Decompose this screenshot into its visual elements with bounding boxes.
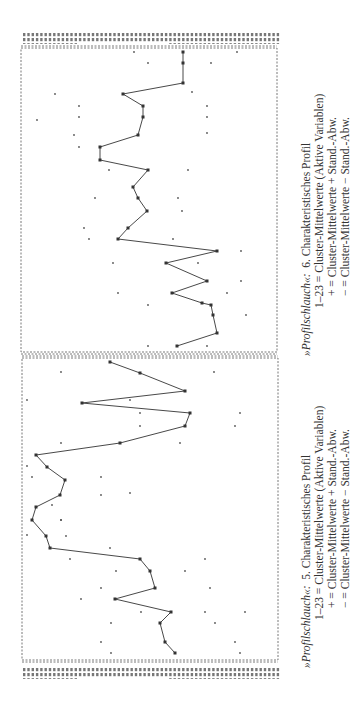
mean-point-marker [147, 169, 150, 172]
tick-label [139, 33, 141, 36]
tick-label [165, 38, 167, 41]
tick-label [45, 668, 47, 671]
minus-sd-marker [204, 611, 206, 613]
tick-label [199, 668, 201, 671]
tick-label [36, 673, 38, 676]
tick-label [208, 673, 210, 676]
tick-label [277, 668, 279, 671]
tick-label [53, 668, 55, 671]
mean-profile-line [32, 362, 190, 653]
mean-point-marker [64, 479, 67, 482]
tick-label [260, 668, 262, 671]
tick-label [247, 33, 249, 36]
minus-sd-marker [214, 622, 216, 624]
mean-point-marker [31, 519, 34, 522]
tick-label [45, 33, 47, 36]
tick-label [221, 673, 223, 676]
plus-sd-marker [26, 465, 28, 467]
tick-label [217, 33, 219, 36]
tick-label [165, 33, 167, 36]
tick-label [238, 668, 240, 671]
tick-label [45, 38, 47, 41]
tick-label [148, 33, 150, 36]
tick-label [62, 673, 64, 676]
mean-point-marker [182, 51, 185, 54]
tick-label [53, 38, 55, 41]
tick-label [174, 33, 176, 36]
tick-label [255, 673, 257, 676]
tick-label [40, 38, 42, 41]
mean-point-marker [174, 652, 177, 655]
tick-label [23, 668, 25, 671]
tick-label [212, 673, 214, 676]
tick-label [75, 38, 77, 41]
tick-label [161, 38, 163, 41]
minus-sd-marker [187, 169, 189, 171]
tick-label [83, 38, 85, 41]
minus-sd-marker [100, 476, 102, 478]
plus-sd-marker [139, 412, 141, 414]
plus-sd-marker [108, 169, 110, 171]
tick-label [251, 33, 253, 36]
tick-label [27, 33, 29, 36]
tick-label [208, 33, 210, 36]
tick-label [242, 668, 244, 671]
mean-point-marker [137, 134, 140, 137]
tick-label [126, 38, 128, 41]
caption-bottom-title: 5. Charakteristisches Profil [300, 455, 312, 580]
mean-point-marker [210, 304, 213, 307]
tick-label [247, 38, 249, 41]
tick-label [36, 668, 38, 671]
plus-sd-marker [54, 93, 56, 95]
plus-sd-marker [110, 622, 112, 624]
tick-label [229, 38, 231, 41]
plus-sd-marker [78, 146, 80, 148]
tick-label [221, 33, 223, 36]
plus-sd-marker [100, 641, 102, 643]
mean-point-marker [49, 547, 52, 550]
tick-label [195, 33, 197, 36]
minus-sd-marker [239, 652, 241, 654]
caption-bottom-line2: + = Cluster-Mittelwerte + Stand.-Abw. [326, 406, 339, 668]
tick-label [122, 673, 124, 676]
tick-label [229, 33, 231, 36]
plus-sd-marker [80, 598, 82, 600]
tick-label [195, 668, 197, 671]
tick-label [148, 668, 150, 671]
tick-label [208, 668, 210, 671]
tick-label [100, 673, 102, 676]
mean-point-marker [99, 146, 102, 149]
minus-sd-marker [209, 587, 211, 589]
minus-sd-marker [109, 547, 111, 549]
tick-label [212, 33, 214, 36]
tick-label [174, 38, 176, 41]
tick-label [83, 673, 85, 676]
tick-label [131, 668, 133, 671]
tick-label [118, 668, 120, 671]
mean-point-marker [189, 412, 192, 415]
tick-label [70, 668, 72, 671]
tick-label [264, 33, 266, 36]
tick-label [126, 33, 128, 36]
tick-label [268, 38, 270, 41]
tick-label [139, 38, 141, 41]
tick-label [131, 38, 133, 41]
plus-sd-marker [88, 238, 90, 240]
minus-sd-marker [177, 197, 179, 199]
mean-point-marker [127, 227, 130, 230]
mean-point-marker [212, 314, 215, 317]
tick-label [272, 38, 274, 41]
tick-label [113, 38, 115, 41]
tick-label [96, 668, 98, 671]
tick-label [70, 673, 72, 676]
mean-point-marker [139, 372, 142, 375]
mean-point-marker [159, 622, 162, 625]
minus-sd-marker [234, 425, 236, 427]
tick-label [105, 668, 107, 671]
tick-label [242, 38, 244, 41]
tick-label [53, 673, 55, 676]
tick-label [178, 668, 180, 671]
tick-label [109, 33, 111, 36]
minus-sd-marker [239, 412, 241, 414]
plus-sd-marker [83, 227, 85, 229]
